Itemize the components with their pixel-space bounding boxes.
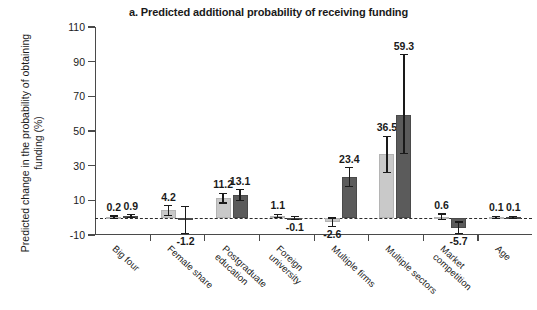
x-axis-tick: [204, 235, 205, 241]
y-axis-tick-label: 50: [73, 125, 85, 137]
y-axis-tick: [88, 26, 95, 27]
bar-value-label: 0.6: [434, 199, 449, 211]
error-bar-cap: [110, 215, 118, 216]
x-category-label-line: Big four: [111, 243, 142, 273]
y-axis-tick: [88, 234, 95, 235]
x-category-label-line: Multiple firms: [329, 243, 377, 289]
y-axis-tick: [88, 200, 95, 201]
error-bar-line: [458, 222, 459, 233]
x-category-label-line: Age: [493, 243, 513, 263]
error-bar-cap: [383, 172, 391, 173]
error-bar-cap: [455, 233, 463, 234]
x-axis-tick: [314, 235, 315, 241]
plot-area: -101030507090110 0.20.94.2-1.211.213.11.…: [95, 27, 532, 235]
y-axis-tick: [88, 165, 95, 166]
error-bar-line: [386, 136, 387, 172]
error-bar-cap: [164, 215, 172, 216]
error-bar-cap: [219, 202, 227, 203]
x-category-label: Foreignuniversity: [267, 243, 311, 286]
x-category-label: Age: [493, 243, 513, 263]
error-bar-cap: [492, 216, 500, 217]
x-axis-tick: [150, 235, 151, 241]
y-axis-tick-label: 70: [73, 90, 85, 102]
y-axis-tick: [88, 130, 95, 131]
error-bar-cap: [127, 214, 135, 215]
error-bar-cap: [328, 217, 336, 218]
bar-value-label: -0.1: [286, 221, 304, 233]
error-bar-cap: [291, 216, 299, 217]
error-bar-cap: [181, 206, 189, 207]
error-bar-line: [403, 55, 404, 154]
error-bar-cap: [219, 193, 227, 194]
bar-value-label: 0.9: [124, 200, 139, 212]
error-bar-cap: [438, 219, 446, 220]
x-category-label-line: Female share: [165, 243, 215, 291]
x-category-label: Multiple sectors: [384, 243, 440, 296]
error-bar-cap: [127, 217, 135, 218]
y-axis-tick-label: 90: [73, 56, 85, 68]
y-axis-tick-label: 10: [73, 194, 85, 206]
y-axis-tick: [88, 61, 95, 62]
error-bar-cap: [236, 189, 244, 190]
error-bar-cap: [492, 218, 500, 219]
x-axis-tick: [477, 235, 478, 241]
bar-value-label: -1.2: [176, 235, 194, 247]
bar-value-label: 1.1: [270, 199, 285, 211]
x-axis-tick: [259, 235, 260, 241]
zero-reference-line: [95, 218, 532, 219]
error-bar-cap: [274, 217, 282, 218]
error-bar-cap: [236, 200, 244, 201]
x-category-label: Multiple firms: [329, 243, 377, 289]
bar-value-label: 4.2: [161, 191, 176, 203]
bar-value-label: 13.1: [230, 175, 250, 187]
error-bar-cap: [509, 218, 517, 219]
y-axis-line: [95, 27, 96, 235]
error-bar-cap: [328, 226, 336, 227]
x-category-label: Female share: [165, 243, 215, 291]
x-category-label: Postgraduateeducation: [213, 243, 269, 298]
error-bar-cap: [274, 214, 282, 215]
bar-value-label: -2.6: [323, 228, 341, 240]
bar-value-label: 59.3: [394, 40, 414, 52]
bar-value-label: 0.1: [506, 201, 521, 213]
error-bar-cap: [291, 219, 299, 220]
bar-value-label: 0.2: [107, 201, 122, 213]
error-bar-cap: [110, 218, 118, 219]
y-axis-tick: [88, 96, 95, 97]
error-bar-cap: [509, 216, 517, 217]
error-bar-cap: [400, 54, 408, 55]
error-bar-line: [349, 168, 350, 187]
x-axis-tick: [423, 235, 424, 241]
x-category-label: Big four: [111, 243, 142, 273]
y-axis-title-line1: Predicted change in the probability: [19, 91, 31, 252]
bar-value-label: 23.4: [339, 153, 359, 165]
bar-value-label: -5.7: [450, 235, 468, 247]
y-axis-title: Predicted change in the probability of o…: [19, 33, 45, 253]
y-axis-tick-label: 110: [68, 21, 85, 33]
y-axis-tick-label: -10: [70, 229, 85, 241]
chart-container: a. Predicted additional probability of r…: [0, 0, 537, 310]
bar-value-label: 36.5: [377, 121, 397, 133]
error-bar-cap: [164, 205, 172, 206]
y-axis-tick-label: 30: [73, 160, 85, 172]
bar-value-label: 0.1: [489, 201, 504, 213]
chart-title: a. Predicted additional probability of r…: [0, 6, 537, 18]
error-bar-cap: [455, 221, 463, 222]
error-bar-cap: [345, 186, 353, 187]
error-bar-cap: [400, 153, 408, 154]
x-category-label-line: Multiple sectors: [384, 243, 440, 296]
error-bar-cap: [181, 233, 189, 234]
error-bar-cap: [345, 167, 353, 168]
x-axis-tick: [368, 235, 369, 241]
error-bar-cap: [438, 213, 446, 214]
error-bar-line: [185, 206, 186, 233]
error-bar-cap: [383, 136, 391, 137]
x-category-label: Marketcompetition: [431, 243, 482, 292]
